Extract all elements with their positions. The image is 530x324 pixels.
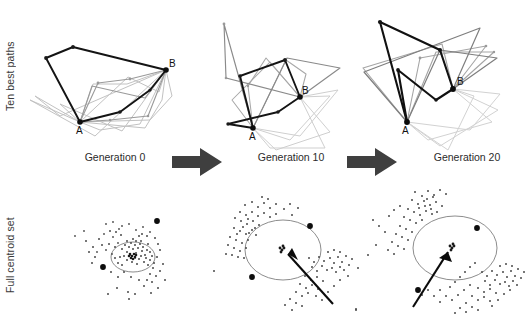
node-label-a-paths-gen10: A (249, 131, 256, 142)
panel-full-centroid-set-gen10: A B (176, 180, 356, 324)
node-label-a-paths-gen0: A (76, 125, 83, 136)
centroid-gen20-svg (352, 180, 530, 324)
generation-label-10: Generation 10 (236, 151, 346, 163)
node-b-dot-centroid-gen0 (154, 218, 160, 224)
paths-gen20-svg (352, 0, 530, 148)
node-label-b-paths-gen0: B (169, 58, 176, 69)
centroid-arrowhead-gen20 (439, 252, 452, 262)
centroid-points-gen0 (74, 221, 166, 300)
right-arrow-icon (170, 145, 226, 179)
right-arrow-icon (345, 145, 401, 179)
panel-full-centroid-set-gen20: A B (352, 180, 530, 324)
paths-gen0-svg (0, 0, 180, 148)
centroid-core-cluster-gen0 (128, 253, 138, 261)
node-a-dot-centroid-gen20 (415, 287, 421, 293)
arrow-gen10-to-gen20 (345, 145, 401, 183)
centroid-core-cluster-gen20 (449, 243, 456, 252)
node-a-dot-centroid-gen0 (100, 264, 106, 270)
centroid-points-gen20 (355, 189, 525, 314)
centroid-core-cluster-gen10 (279, 245, 286, 254)
node-b-dot-centroid-gen10 (307, 223, 313, 229)
generation-label-20: Generation 20 (412, 151, 522, 163)
node-label-a-paths-gen20: A (402, 125, 409, 136)
centroid-gen0-svg (0, 180, 180, 324)
panel-full-centroid-set-gen0: A B (0, 180, 180, 324)
generation-label-0: Generation 0 (60, 151, 170, 163)
node-label-b-paths-gen20: B (457, 76, 464, 87)
centroid-gen10-svg (176, 180, 356, 324)
panel-ten-best-paths-gen0: A B (0, 0, 180, 148)
figure-canvas: Ten best paths Full centroid set (0, 0, 530, 324)
centroid-arrow-gen20 (413, 252, 448, 307)
paths-gen10-svg (176, 0, 356, 148)
node-a-dot-centroid-gen10 (249, 274, 255, 280)
panel-ten-best-paths-gen10: A B (176, 0, 356, 148)
node-b-dot-centroid-gen20 (474, 225, 480, 231)
node-label-b-paths-gen10: B (302, 85, 309, 96)
centroid-points-gen10 (213, 196, 357, 311)
arrow-gen0-to-gen10 (170, 145, 226, 183)
centroid-ellipse-gen20 (413, 216, 497, 280)
centroid-ellipse-gen0 (111, 242, 155, 272)
panel-ten-best-paths-gen20: A B (352, 0, 530, 148)
